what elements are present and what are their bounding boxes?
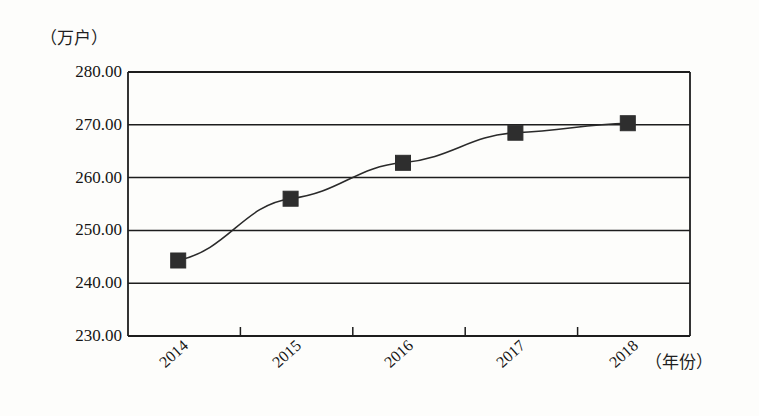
data-series-line [178,123,628,260]
x-axis-tickmarks [240,327,577,336]
data-point-marker [508,125,523,140]
data-point-marker [620,116,635,131]
plot-frame [128,72,690,336]
data-point-marker [171,253,186,268]
line-chart: （万户） （年份） 280.00270.00260.00250.00240.00… [0,0,759,416]
plot-area [0,0,759,416]
data-point-marker [283,191,298,206]
series-line [178,123,628,260]
data-markers [171,116,636,268]
data-point-marker [396,155,411,170]
gridlines [128,125,690,283]
